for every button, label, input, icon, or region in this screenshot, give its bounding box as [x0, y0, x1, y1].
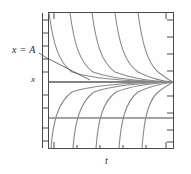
equilibrium-annotation-label: x = A [12, 44, 36, 55]
x-axis-label: t [105, 155, 108, 166]
plot-canvas [0, 0, 191, 174]
solution-curves-below [51, 82, 173, 148]
phase-portrait-figure: x = A x t [0, 0, 191, 174]
y-axis-ticks-left [42, 13, 49, 148]
annotation-leader-line [39, 53, 90, 80]
solution-curves-above [49, 13, 173, 82]
x-axis-ticks-bottom [54, 142, 166, 149]
y-axis-label: x [31, 74, 35, 84]
